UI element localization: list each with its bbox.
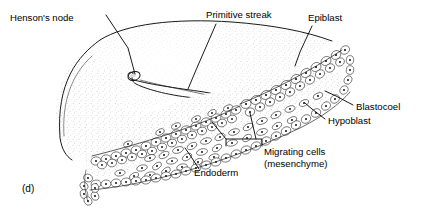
label-mesenchyme: (mesenchyme) [264,158,327,169]
label-blastocoel: Blastocoel [356,101,400,112]
embryo-diagram-svg: Henson's node Primitive streak Epiblast … [0,0,426,215]
label-hensons-node: Henson's node [10,12,74,23]
panel-label: (d) [22,183,34,194]
label-endoderm: Endoderm [194,167,238,178]
label-hypoblast: Hypoblast [328,115,371,126]
label-migrating-cells: Migrating cells [264,146,326,157]
label-primitive-streak: Primitive streak [206,9,272,20]
label-epiblast: Epiblast [308,12,342,23]
figure-root: Henson's node Primitive streak Epiblast … [0,0,426,215]
